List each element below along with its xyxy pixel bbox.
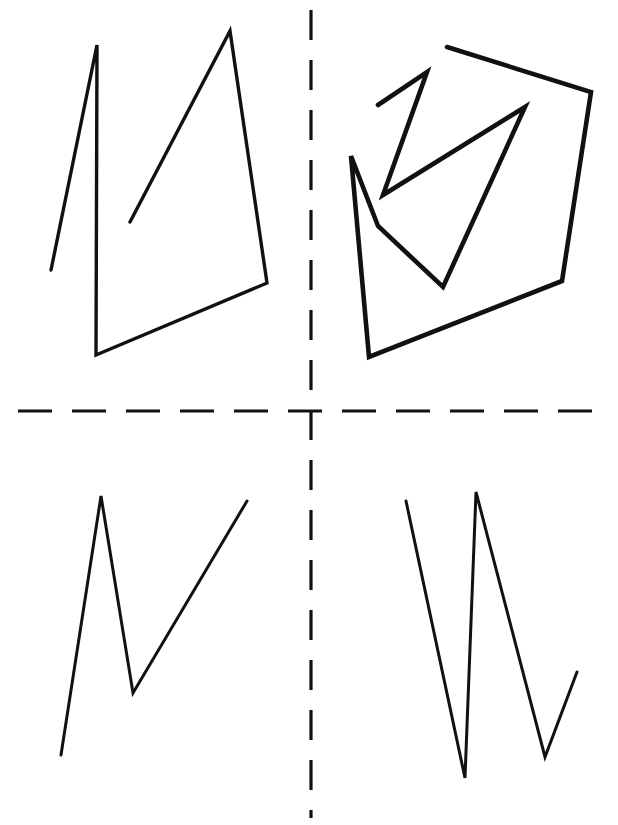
four-quadrant-figure-canvas [0, 0, 618, 825]
figure-sheet [0, 0, 618, 825]
